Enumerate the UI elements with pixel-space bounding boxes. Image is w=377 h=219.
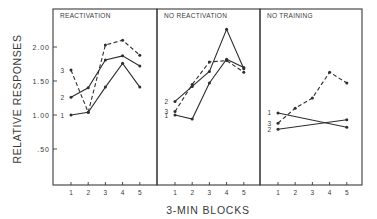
series-label: 1	[267, 109, 271, 116]
data-point	[138, 86, 141, 89]
data-point	[70, 69, 73, 72]
data-point	[104, 58, 107, 61]
data-point	[242, 71, 245, 74]
series-1-line	[278, 113, 347, 127]
data-point	[225, 28, 228, 31]
data-point	[191, 83, 194, 86]
data-point	[311, 97, 314, 100]
data-point	[208, 60, 211, 63]
x-tick-label: 5	[138, 189, 142, 196]
series-label: 3	[60, 67, 64, 74]
data-point	[225, 59, 228, 62]
x-tick-label: 1	[69, 189, 73, 196]
data-point	[345, 126, 348, 129]
data-point	[277, 122, 280, 125]
panel-title: NO TRAINING	[267, 12, 313, 19]
series-label: 3	[267, 120, 271, 127]
panel-reactivation: REACTIVATION12345123	[53, 9, 157, 196]
panel-frame	[157, 9, 260, 185]
data-point	[87, 111, 90, 114]
data-point	[277, 128, 280, 131]
series-2-line	[278, 120, 347, 130]
data-point	[328, 71, 331, 74]
x-tick-label: 2	[86, 189, 90, 196]
x-tick-label: 1	[276, 189, 280, 196]
series-3-line	[71, 40, 140, 112]
panel-no-training: NO TRAINING12345123	[260, 9, 362, 196]
data-point	[345, 118, 348, 121]
y-tick-label: .50	[37, 146, 50, 153]
data-point	[208, 82, 211, 85]
series-label: 2	[267, 126, 271, 133]
series-label: 3	[164, 108, 168, 115]
x-axis-label: 3-MIN BLOCKS	[166, 204, 250, 216]
data-point	[70, 96, 73, 99]
data-point	[242, 67, 245, 70]
data-point	[208, 70, 211, 73]
data-point	[104, 86, 107, 89]
x-tick-label: 5	[345, 189, 349, 196]
chart-svg: .501.001.502.00 REACTIVATION12345123NO R…	[0, 0, 377, 219]
data-point	[121, 39, 124, 42]
series-label: 1	[60, 112, 64, 119]
x-tick-label: 4	[328, 189, 332, 196]
series-1-line	[71, 63, 140, 115]
x-tick-label: 4	[121, 189, 125, 196]
panel-frame	[260, 9, 362, 185]
x-tick-label: 1	[173, 189, 177, 196]
series-label: 2	[60, 94, 64, 101]
data-point	[138, 65, 141, 68]
panel-title: NO REACTIVATION	[164, 12, 227, 19]
data-point	[174, 100, 177, 103]
data-point	[277, 111, 280, 114]
chart-container: .501.001.502.00 REACTIVATION12345123NO R…	[0, 0, 377, 219]
x-tick-label: 4	[225, 189, 229, 196]
series-1-line	[175, 59, 244, 119]
x-tick-label: 5	[242, 189, 246, 196]
x-tick-label: 3	[311, 189, 315, 196]
data-point	[87, 86, 90, 89]
data-point	[294, 107, 297, 110]
x-tick-label: 2	[293, 189, 297, 196]
x-tick-label: 2	[190, 189, 194, 196]
data-point	[104, 43, 107, 46]
data-point	[138, 54, 141, 57]
panel-no-reactivation: NO REACTIVATION12345123	[157, 9, 260, 196]
data-point	[191, 118, 194, 121]
data-point	[121, 54, 124, 57]
data-point	[174, 114, 177, 117]
data-point	[345, 82, 348, 85]
y-axis-label: RELATIVE RESPONSES	[11, 34, 23, 163]
data-point	[70, 114, 73, 117]
panel-frame	[53, 9, 157, 185]
series-3-line	[175, 61, 244, 112]
series-label: 2	[164, 98, 168, 105]
series-2-line	[71, 56, 140, 97]
data-point	[174, 110, 177, 113]
y-tick-label: 1.50	[32, 78, 50, 85]
panel-title: REACTIVATION	[60, 12, 111, 19]
y-tick-label: 2.00	[32, 44, 50, 51]
panels: REACTIVATION12345123NO REACTIVATION12345…	[53, 9, 362, 196]
data-point	[121, 62, 124, 65]
x-tick-label: 3	[104, 189, 108, 196]
y-tick-label: 1.00	[32, 112, 50, 119]
x-tick-label: 3	[208, 189, 212, 196]
